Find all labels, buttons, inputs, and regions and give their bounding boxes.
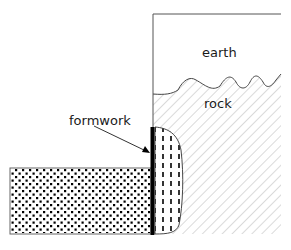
rock-label: rock — [204, 96, 232, 111]
earth-label: earth — [202, 45, 237, 60]
diagram-canvas: earth rock formwork — [0, 0, 291, 250]
formwork-label: formwork — [69, 113, 131, 128]
formwork-panel — [151, 127, 155, 235]
concrete-block-fill — [11, 169, 150, 233]
formwork-arrow-line — [94, 126, 146, 151]
infill-dashes — [155, 127, 183, 234]
